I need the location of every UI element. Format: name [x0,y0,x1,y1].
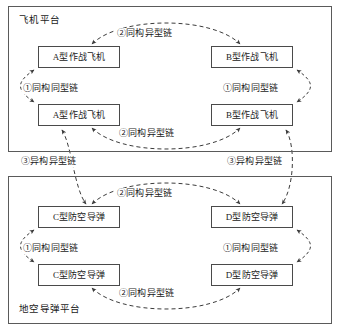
link-label-bridge-left: ③异构异型链 [20,156,77,167]
link-label-air-right: ①同构同型链 [222,83,279,94]
link-label-air-left: ①同构同型链 [22,83,79,94]
link-label-sam-left: ①同构同型链 [22,243,79,254]
sam-platform-title: 地空导弹平台 [19,303,81,315]
node-b-top[interactable]: B型作战飞机 [211,46,293,68]
node-c-top[interactable]: C型防空导弹 [38,206,120,228]
link-label-air-bottom: ②同构异型链 [118,128,175,139]
aircraft-platform-title: 飞机平台 [19,14,60,26]
node-a-top[interactable]: A型作战飞机 [38,46,120,68]
node-c-bottom[interactable]: C型防空导弹 [38,264,120,286]
node-b-bottom[interactable]: B型作战飞机 [211,104,293,126]
diagram-canvas: 飞机平台 地空导弹平台 A型作战飞机 B型作战飞机 A型作战飞机 B型作战飞机 … [0,0,338,333]
link-label-bridge-right: ③异构异型链 [226,156,283,167]
link-label-air-top: ②同构异型链 [116,28,173,39]
node-d-bottom[interactable]: D型防空导弹 [211,264,293,286]
node-d-top[interactable]: D型防空导弹 [211,206,293,228]
node-a-bottom[interactable]: A型作战飞机 [38,104,120,126]
link-label-sam-right: ①同构同型链 [222,243,279,254]
link-label-sam-top: ②同构异型链 [116,188,173,199]
link-label-sam-bottom: ②同构异型链 [118,288,175,299]
